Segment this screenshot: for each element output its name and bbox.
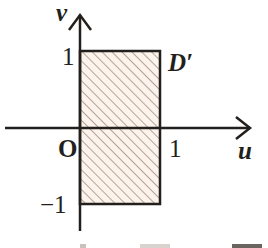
u-axis-label: u <box>238 138 252 163</box>
region-label: D′ <box>168 50 193 75</box>
cropped-artifact <box>140 244 170 248</box>
v-axis-label: v <box>56 0 67 25</box>
uv-plane-diagram: v 1 D′ O 1 u −1 <box>0 0 268 248</box>
origin-label: O <box>58 136 77 161</box>
cropped-artifact <box>80 244 86 248</box>
v-tick-label-1: 1 <box>62 44 75 69</box>
cropped-artifact <box>232 244 262 248</box>
u-tick-label-1: 1 <box>169 136 182 161</box>
v-tick-label-neg1: −1 <box>40 192 67 217</box>
